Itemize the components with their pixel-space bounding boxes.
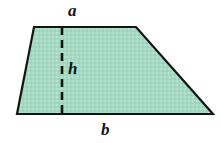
height-label: h	[68, 60, 77, 77]
trapezoid-diagram: a h b	[0, 0, 221, 143]
bottom-base-label: b	[101, 121, 110, 138]
top-base-label: a	[68, 2, 77, 19]
trapezoid-shape	[17, 27, 213, 114]
trapezoid-figure-svg	[0, 0, 221, 143]
